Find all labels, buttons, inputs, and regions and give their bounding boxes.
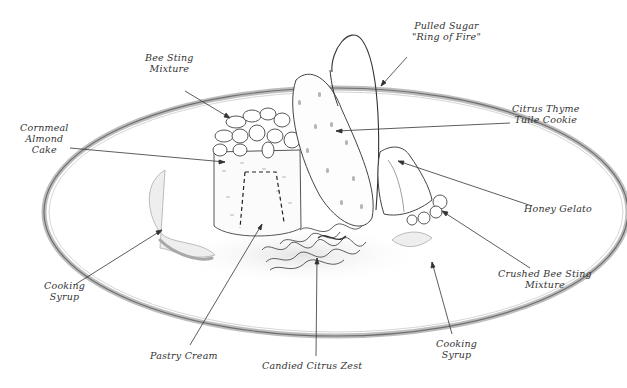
label-cooking-syrup-left: Cooking Syrup <box>44 280 85 302</box>
cornmeal-almond-cake-icon <box>214 150 301 236</box>
label-pulled-sugar: Pulled Sugar "Ring of Fire" <box>412 20 481 42</box>
dessert-illustration <box>0 0 627 388</box>
label-cornmeal-almond-cake: Cornmeal Almond Cake <box>20 122 69 155</box>
label-bee-sting-mixture: Bee Sting Mixture <box>145 52 194 74</box>
label-pastry-cream: Pastry Cream <box>150 350 218 361</box>
label-citrus-thyme-tuile: Citrus Thyme Tuile Cookie <box>512 103 580 125</box>
honey-gelato-icon <box>378 147 432 215</box>
dessert-diagram: Pulled Sugar "Ring of Fire" Bee Sting Mi… <box>0 0 627 388</box>
label-candied-citrus-zest: Candied Citrus Zest <box>262 360 362 371</box>
tuile-cookie-icon <box>293 74 373 226</box>
label-crushed-bee-sting: Crushed Bee Sting Mixture <box>498 268 592 290</box>
label-honey-gelato: Honey Gelato <box>524 203 592 214</box>
label-cooking-syrup-right: Cooking Syrup <box>436 338 477 360</box>
